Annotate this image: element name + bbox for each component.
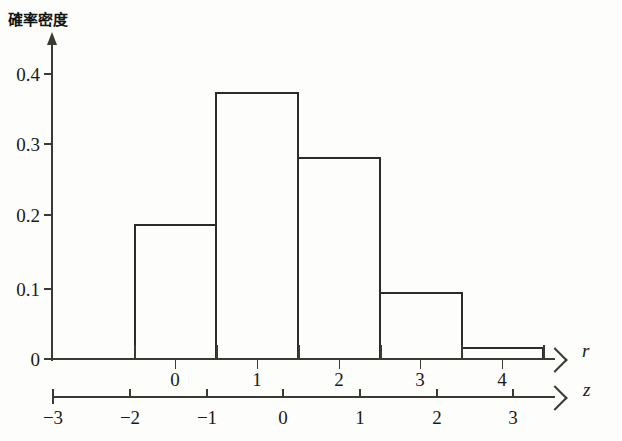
y-tick-0.2 xyxy=(44,214,52,216)
histogram-bar-0 xyxy=(134,224,217,360)
r-tick-edge-0 xyxy=(134,345,136,359)
z-tick-label-1: 1 xyxy=(340,408,380,427)
histogram-bar-1 xyxy=(215,92,299,360)
r-tick-label-0: 0 xyxy=(155,370,195,389)
r-tick-center-1 xyxy=(257,360,258,369)
z-axis-name: z xyxy=(583,380,590,399)
y-tick-label-0.2: 0.2 xyxy=(0,206,40,225)
z-tick-label--3: −3 xyxy=(33,408,73,427)
r-tick-center-2 xyxy=(339,360,340,369)
y-tick-0 xyxy=(44,358,52,360)
z-tick--2 xyxy=(129,389,131,398)
y-tick-0.4 xyxy=(44,73,52,75)
z-tick-label--2: −2 xyxy=(110,408,150,427)
r-tick-center-4 xyxy=(502,360,503,369)
r-axis-name: r xyxy=(582,341,589,360)
y-axis-arrow-icon xyxy=(47,32,57,45)
r-tick-label-1: 1 xyxy=(237,370,277,389)
y-tick-label-0: 0 xyxy=(0,350,40,369)
y-tick-label-0.4: 0.4 xyxy=(0,65,40,84)
z-tick--3 xyxy=(52,389,54,404)
r-tick-edge-1 xyxy=(216,345,218,359)
histogram-bar-2 xyxy=(297,157,381,360)
y-tick-label-0.1: 0.1 xyxy=(0,280,40,299)
y-axis-line xyxy=(51,44,53,361)
r-tick-center-3 xyxy=(420,360,421,369)
y-tick-0.1 xyxy=(44,288,52,290)
r-axis-arrow-icon xyxy=(542,347,567,372)
y-axis-title: 確率密度 xyxy=(8,8,68,29)
y-tick-0.3 xyxy=(44,143,52,145)
z-tick-label-0: 0 xyxy=(263,408,303,427)
r-tick-label-3: 3 xyxy=(400,370,440,389)
r-tick-label-4: 4 xyxy=(482,370,522,389)
r-axis-line xyxy=(52,358,555,360)
r-tick-edge-5 xyxy=(543,345,545,359)
r-tick-label-2: 2 xyxy=(319,370,359,389)
z-tick--1 xyxy=(206,389,208,398)
z-tick-label-2: 2 xyxy=(417,408,457,427)
histogram-bar-3 xyxy=(379,292,463,360)
y-tick-label-0.3: 0.3 xyxy=(0,135,40,154)
r-tick-edge-3 xyxy=(380,345,382,359)
z-tick-1 xyxy=(359,389,361,398)
z-axis-arrow-icon xyxy=(542,385,567,410)
z-tick-0 xyxy=(282,389,284,398)
z-tick-2 xyxy=(436,389,438,398)
z-tick-3 xyxy=(512,389,514,398)
z-tick-label-3: 3 xyxy=(493,408,533,427)
r-tick-center-0 xyxy=(175,360,176,369)
histogram-figure: 確率密度 0.4 0.3 0.2 0.1 0 0 1 2 3 4 r xyxy=(0,0,622,441)
r-tick-edge-2 xyxy=(298,345,300,359)
r-tick-edge-4 xyxy=(461,345,463,359)
z-tick-label--1: −1 xyxy=(187,408,227,427)
